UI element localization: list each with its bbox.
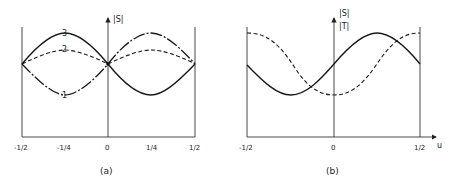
- panel-b: |S| |T| u -1/2 0 1/2 (b): [239, 9, 442, 176]
- caption-a: (a): [100, 166, 113, 176]
- x-axis-label: u: [437, 141, 442, 150]
- curve-label-1: 1: [62, 91, 67, 100]
- tick-label: 1/4: [146, 144, 158, 152]
- curve-1-right: [108, 64, 195, 95]
- y-axis-label-T: |T|: [339, 22, 349, 31]
- y-axis-label: |S|: [113, 15, 123, 24]
- intersection-point: [106, 62, 110, 66]
- tick-label: -1/4: [57, 144, 71, 152]
- tick-label: -1/2: [14, 144, 28, 152]
- tick-label: -1/2: [239, 144, 253, 152]
- tick-label: 0: [105, 144, 109, 152]
- curve-3-right: [108, 33, 195, 64]
- figure: 3 2 1 |S| -1/2 -1/4 0 1/4 1/2 (a) |S| |T…: [0, 0, 449, 185]
- caption-b: (b): [326, 166, 339, 176]
- tick-label: 1/2: [414, 144, 425, 152]
- tick-label: 0: [331, 144, 335, 152]
- panel-a: 3 2 1 |S| -1/2 -1/4 0 1/4 1/2 (a): [14, 15, 200, 176]
- curve-label-3: 3: [62, 29, 67, 38]
- curve-label-2: 2: [62, 45, 67, 54]
- tick-label: 1/2: [189, 144, 200, 152]
- y-axis-label-S: |S|: [339, 9, 349, 18]
- curve-2: [22, 50, 195, 64]
